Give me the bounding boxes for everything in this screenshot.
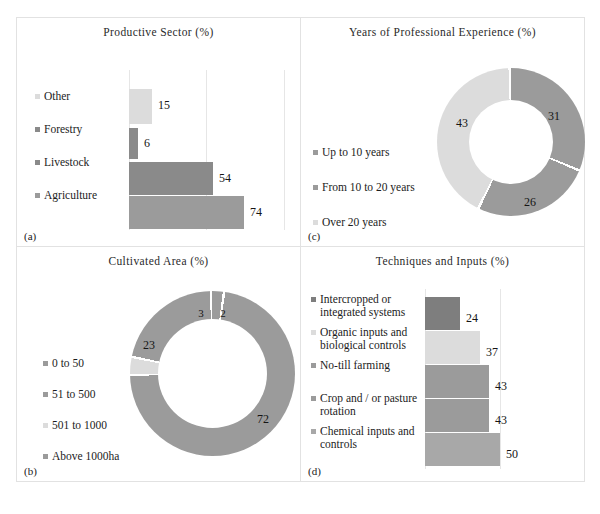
legend-item-label: Other	[44, 90, 70, 103]
legend-swatch-icon	[311, 429, 316, 434]
legend-swatch-icon	[43, 392, 48, 397]
bar-organic-inputs-biological-controls[interactable]	[425, 331, 480, 364]
bar-no-till-farming[interactable]	[425, 365, 489, 398]
panel-a-tag: (a)	[24, 230, 36, 242]
donut-hole	[158, 319, 267, 428]
slice-value-label: 2	[220, 307, 226, 319]
panel-b-title: Cultivated Area (%)	[17, 255, 300, 267]
bar-value-label: 43	[495, 413, 507, 428]
legend-swatch-icon	[43, 361, 48, 366]
legend-item-label: 0 to 50	[52, 357, 84, 370]
slice-value-label: 26	[524, 195, 536, 210]
panel-b-cultivated-area: Cultivated Area (%) 0 to 50 51 to 500 50…	[16, 246, 301, 482]
legend-item-label: Over 20 years	[322, 216, 387, 229]
legend-item[interactable]: Intercropped or integrated systems	[311, 293, 439, 326]
legend-swatch-icon	[35, 160, 40, 165]
legend-item[interactable]: Up to 10 years	[313, 146, 448, 181]
panel-a-plot-area: 15 6 54 74	[129, 70, 289, 230]
legend-item[interactable]: Organic inputs and biological controls	[311, 326, 439, 359]
legend-swatch-icon	[35, 127, 40, 132]
panel-d-tag: (d)	[308, 465, 321, 477]
legend-item[interactable]: Other	[35, 90, 130, 123]
legend-item-label: Up to 10 years	[322, 146, 389, 159]
legend-swatch-icon	[35, 94, 40, 99]
legend-swatch-icon	[313, 150, 318, 155]
panel-d-legend: Intercropped or integrated systems Organ…	[311, 293, 439, 458]
gridline	[284, 70, 285, 230]
figure-panel-grid: Productive Sector (%) Other Forestry Liv…	[0, 0, 600, 514]
bar-crop-pasture-rotation[interactable]	[425, 399, 489, 432]
legend-item[interactable]: Livestock	[35, 156, 130, 189]
bar-value-label: 43	[495, 379, 507, 394]
bar-chemical-inputs-controls[interactable]	[425, 433, 500, 466]
bar-value-label: 6	[144, 136, 150, 151]
legend-item[interactable]: Agriculture	[35, 189, 130, 222]
legend-swatch-icon	[311, 330, 316, 335]
legend-swatch-icon	[43, 423, 48, 428]
panel-a-title: Productive Sector (%)	[17, 26, 300, 38]
panel-c-title: Years of Professional Experience (%)	[301, 26, 584, 38]
legend-item-label: Forestry	[44, 123, 82, 136]
panel-c-donut: 31 26 43	[437, 68, 585, 216]
bar-value-label: 74	[250, 205, 262, 220]
legend-item[interactable]: Chemical inputs and controls	[311, 425, 439, 458]
panel-a-productive-sector: Productive Sector (%) Other Forestry Liv…	[16, 17, 301, 247]
legend-item[interactable]: From 10 to 20 years	[313, 181, 448, 216]
legend-item[interactable]: Forestry	[35, 123, 130, 156]
legend-item-label: Organic inputs and biological controls	[320, 326, 407, 352]
legend-item-label: Livestock	[44, 156, 89, 169]
panel-c-years-experience: Years of Professional Experience (%) Up …	[300, 17, 585, 247]
legend-swatch-icon	[43, 454, 48, 459]
panel-d-plot-area: 24 37 43 43 50	[425, 289, 575, 469]
legend-swatch-icon	[313, 220, 318, 225]
legend-item-label: Crop and / or pasture rotation	[320, 392, 417, 418]
legend-swatch-icon	[311, 363, 316, 368]
legend-item-label: Chemical inputs and controls	[320, 425, 415, 451]
slice-value-label: 43	[456, 116, 468, 131]
legend-item-label: 501 to 1000	[52, 419, 107, 432]
bar-forestry[interactable]	[129, 128, 138, 159]
legend-swatch-icon	[311, 297, 316, 302]
panel-d-techniques-inputs: Techniques and Inputs (%) Intercropped o…	[300, 246, 585, 482]
slice-value-label: 3	[198, 307, 204, 319]
bar-value-label: 37	[486, 345, 498, 360]
panel-a-legend: Other Forestry Livestock Agriculture	[35, 90, 130, 222]
legend-item-label: From 10 to 20 years	[322, 181, 415, 194]
bar-intercropped-integrated-systems[interactable]	[425, 297, 460, 330]
legend-item-label: Intercropped or integrated systems	[320, 293, 405, 319]
legend-item[interactable]: No-till farming	[311, 359, 439, 392]
bar-value-label: 54	[219, 171, 231, 186]
bar-value-label: 15	[158, 98, 170, 113]
legend-swatch-icon	[311, 396, 316, 401]
bar-other[interactable]	[129, 89, 152, 124]
slice-value-label: 31	[548, 109, 560, 124]
panel-b-donut: 2 72 3 23	[130, 291, 295, 456]
panel-d-title: Techniques and Inputs (%)	[301, 255, 584, 267]
panel-b-tag: (b)	[24, 465, 37, 477]
slice-value-label: 72	[257, 412, 269, 427]
bar-value-label: 24	[466, 311, 478, 326]
panel-c-legend: Up to 10 years From 10 to 20 years Over …	[313, 146, 448, 251]
legend-swatch-icon	[35, 193, 40, 198]
legend-item-label: Agriculture	[44, 189, 97, 202]
legend-item[interactable]: Crop and / or pasture rotation	[311, 392, 439, 425]
bar-value-label: 50	[506, 447, 518, 462]
legend-item-label: Above 1000ha	[52, 450, 119, 463]
bar-livestock[interactable]	[129, 162, 213, 195]
legend-swatch-icon	[313, 185, 318, 190]
donut-hole	[469, 100, 553, 184]
bar-agriculture[interactable]	[129, 196, 244, 229]
legend-item-label: 51 to 500	[52, 388, 95, 401]
legend-item-label: No-till farming	[320, 359, 390, 372]
panel-c-tag: (c)	[308, 230, 320, 242]
slice-value-label: 23	[143, 338, 155, 353]
